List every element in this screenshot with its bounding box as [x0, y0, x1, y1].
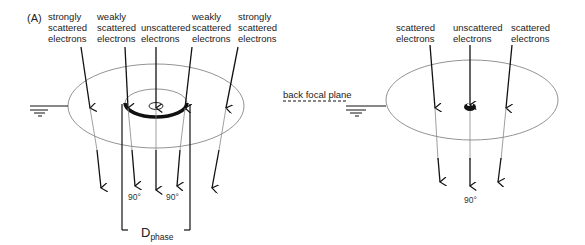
label-unscattered-right: unscattered electrons	[453, 22, 505, 44]
arrow-strongly-scattered-left-out	[97, 150, 101, 188]
arrow-strongly-scattered-right-out	[212, 150, 219, 188]
label-scattered-left: scattered electrons	[396, 22, 438, 44]
right-diagram: back focal plane scattered electrons uns…	[283, 22, 558, 205]
arrow-scattered-left-out	[438, 158, 440, 182]
arrow-scattered-right-out	[498, 158, 501, 182]
phase-plate-diagram: (A) strongly scattered electrons weakly …	[0, 0, 585, 245]
arrow-weakly-scattered-left-out	[132, 150, 135, 186]
phase-shift-label-center: 90°	[464, 195, 477, 205]
arrow-strongly-scattered-right-in	[226, 47, 238, 108]
back-focal-plane-label: back focal plane	[283, 89, 352, 100]
phase-shift-label-right: 90°	[166, 192, 179, 202]
label-strongly-scattered-right: strongly scattered electrons	[238, 11, 280, 44]
ground-icon	[30, 106, 68, 116]
label-weakly-scattered-right: weakly scattered electrons	[191, 11, 234, 44]
label-weakly-scattered-left: weakly scattered electrons	[96, 11, 139, 44]
arrow-scattered-left-in	[430, 45, 435, 108]
phase-shift-label-left: 90°	[128, 192, 141, 202]
label-strongly-scattered-left: strongly scattered electrons	[48, 11, 90, 44]
dphase-label: Dphase	[141, 225, 174, 242]
arrow-scattered-right-in	[506, 45, 512, 108]
label-scattered-right: scattered electrons	[511, 22, 553, 44]
label-unscattered: unscattered electrons	[141, 22, 193, 44]
left-diagram: (A) strongly scattered electrons weakly …	[27, 11, 280, 242]
panel-label: (A)	[27, 12, 42, 24]
arrow-weakly-scattered-right-out	[177, 150, 180, 186]
arrow-strongly-scattered-left-in	[81, 47, 90, 108]
back-focal-plane-ellipse-right	[386, 60, 558, 140]
ground-icon-right	[346, 106, 386, 116]
arrow-weakly-scattered-right-in	[185, 47, 192, 108]
